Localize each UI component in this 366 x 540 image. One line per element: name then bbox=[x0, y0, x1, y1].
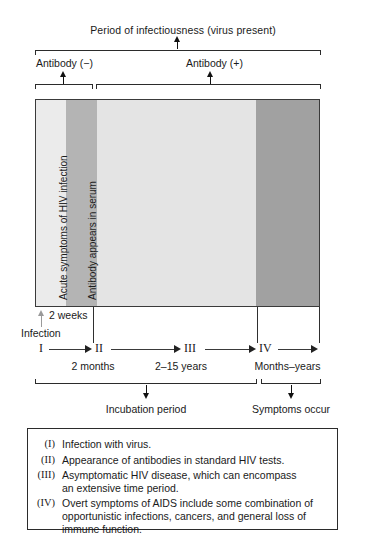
figure-title: Period of infectiousness (virus present) bbox=[0, 24, 366, 36]
legend-item: (II) Appearance of antibodies in standar… bbox=[28, 454, 329, 467]
annotation-antibody-appears: Antibody appears in serum bbox=[87, 181, 98, 300]
legend-box: (I) Infection with virus. (II) Appearanc… bbox=[27, 428, 338, 530]
timeline-chart: Acute symptoms of HIV infection Antibody… bbox=[35, 99, 320, 307]
legend-item-number: (III) bbox=[28, 469, 62, 482]
legend-item: (III) Asymptomatic HIV disease, which ca… bbox=[28, 469, 329, 494]
bracket-incubation-period bbox=[35, 379, 257, 384]
antibody-positive-arrow-head bbox=[207, 71, 213, 77]
stage-sequence: I II III IV bbox=[35, 341, 325, 357]
bracket-period-of-infectiousness bbox=[35, 50, 321, 55]
legend-item-text: Infection with virus. bbox=[62, 438, 151, 451]
legend-item: (IV) Overt symptoms of AIDS include some… bbox=[28, 497, 329, 535]
two-weeks-arrow-stem bbox=[41, 315, 42, 327]
legend-item-text: Asymptomatic HIV disease, which can enco… bbox=[62, 469, 308, 494]
annotation-acute-symptoms: Acute symptoms of HIV infection bbox=[58, 155, 69, 300]
tick-timeline-end bbox=[319, 307, 320, 343]
stage-roman-iv: IV bbox=[259, 341, 272, 356]
stage-roman-iii: III bbox=[184, 341, 196, 356]
stage-arrow-iv-to-end-line bbox=[278, 349, 313, 350]
two-weeks-arrow-head bbox=[38, 310, 44, 316]
bracket-symptoms-occur bbox=[261, 379, 321, 384]
incubation-arrow-head bbox=[143, 393, 149, 399]
legend-item: (I) Infection with virus. bbox=[28, 438, 329, 451]
antibody-negative-arrow-head bbox=[60, 71, 66, 77]
bracket-antibody-positive bbox=[96, 84, 321, 89]
stage-arrow-ii-to-iii-line bbox=[111, 349, 176, 350]
bracket-antibody-negative bbox=[35, 84, 93, 89]
symptoms-occur-label: Symptoms occur bbox=[236, 403, 346, 415]
tick-stage-ii bbox=[93, 307, 94, 343]
incubation-period-label: Incubation period bbox=[86, 403, 206, 415]
legend-item-number: (II) bbox=[28, 454, 62, 467]
stage-roman-ii: II bbox=[95, 341, 103, 356]
antibody-positive-label: Antibody (+) bbox=[186, 57, 243, 69]
stage-arrow-i-to-ii-head bbox=[85, 345, 92, 353]
duration-2-months: 2 months bbox=[54, 360, 132, 372]
hiv-infection-timeline-figure: Period of infectiousness (virus present)… bbox=[0, 0, 366, 540]
band-asymptomatic bbox=[97, 100, 257, 306]
tick-stage-iv bbox=[257, 307, 258, 343]
stage-arrow-iii-to-iv-line bbox=[205, 349, 251, 350]
legend-item-text: Appearance of antibodies in standard HIV… bbox=[62, 454, 284, 467]
stage-arrow-i-to-ii-line bbox=[49, 349, 87, 350]
duration-2-15-years: 2–15 years bbox=[140, 360, 222, 372]
legend-item-number: (IV) bbox=[28, 497, 62, 510]
title-arrow-head bbox=[174, 36, 180, 42]
legend-item-number: (I) bbox=[28, 438, 62, 451]
two-weeks-label: 2 weeks bbox=[49, 309, 88, 321]
stage-arrow-iii-to-iv-head bbox=[249, 345, 256, 353]
stage-roman-i: I bbox=[39, 341, 43, 356]
stage-arrow-ii-to-iii-head bbox=[174, 345, 181, 353]
legend-item-text: Overt symptoms of AIDS include some comb… bbox=[62, 497, 324, 535]
stage-arrow-iv-to-end-head bbox=[311, 345, 318, 353]
band-aids-symptoms bbox=[256, 100, 319, 306]
symptoms-arrow-head bbox=[288, 393, 294, 399]
duration-months-years: Months–years bbox=[240, 360, 335, 372]
antibody-negative-label: Antibody (−) bbox=[36, 57, 93, 69]
infection-label: Infection bbox=[21, 327, 61, 339]
